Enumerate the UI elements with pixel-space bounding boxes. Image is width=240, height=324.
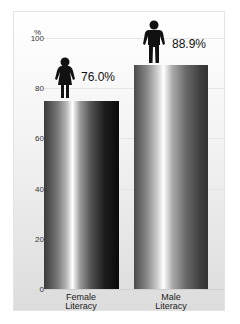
female-figure-icon [54,57,76,99]
x-label-male-line2: Literacy [131,302,211,311]
value-label-male: 88.9% [172,37,206,51]
bar-female-literacy [44,101,119,289]
chart-panel: % 100 80 60 40 20 0 76.0% 88.9% Female L… [13,11,225,311]
x-label-female-line2: Literacy [41,302,121,311]
x-label-male: Male Literacy [131,293,211,311]
bar-male-literacy [134,65,208,289]
x-label-female: Female Literacy [41,293,121,311]
male-figure-icon [142,20,166,64]
y-tick-20: 20 [22,235,44,244]
y-tick-60: 60 [22,134,44,143]
y-tick-40: 40 [22,185,44,194]
y-tick-100: 100 [22,34,44,43]
baseline [44,289,224,290]
y-tick-80: 80 [22,84,44,93]
value-label-female: 76.0% [81,70,115,84]
